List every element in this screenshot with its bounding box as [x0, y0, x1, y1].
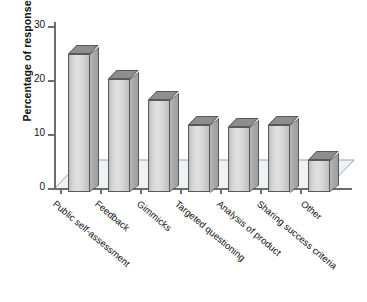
- y-tick-20: 20: [48, 80, 54, 82]
- x-tick-3: [180, 189, 182, 194]
- y-tick-30: 30: [48, 26, 54, 28]
- y-axis-title: Percentage of responses: [21, 0, 33, 143]
- bar-front-face: [148, 100, 170, 192]
- bar-side-face: [90, 47, 99, 192]
- x-axis-label-gimmicks: Gimmicks: [135, 198, 174, 233]
- x-tick-0: [60, 189, 62, 194]
- bar-front-face: [308, 160, 330, 192]
- x-axis-label-feedback: Feedback: [93, 198, 132, 233]
- x-tick-5: [260, 189, 262, 194]
- bar-side-face: [250, 120, 259, 192]
- bar-front-face: [268, 125, 290, 193]
- x-axis-label-other: Other: [299, 198, 324, 222]
- x-tick-4: [220, 189, 222, 194]
- y-tick-label-10: 10: [34, 127, 45, 138]
- bar-front-face: [188, 125, 210, 193]
- bar-side-face: [170, 93, 179, 192]
- bar-gimmicks: [148, 91, 170, 192]
- bar-side-face: [330, 153, 339, 192]
- bar-chart: Percentage of responses 0 10 20 30: [0, 0, 367, 302]
- x-tick-1: [100, 189, 102, 194]
- x-axis-label-sharing-success-criteria: Sharing success criteria: [255, 198, 339, 271]
- x-tick-2: [140, 189, 142, 194]
- bar-other: [308, 151, 330, 192]
- bar-analysis-of-product: [228, 118, 250, 192]
- y-tick-0: 0: [48, 188, 54, 190]
- bar-side-face: [210, 117, 219, 192]
- bar-targeted-questioning: [188, 116, 210, 193]
- x-axis-label-public-self-assessment: Public self-assessment: [51, 198, 132, 269]
- bar-public-self-assessment: [68, 45, 90, 192]
- bar-front-face: [228, 127, 250, 192]
- x-axis-label-targeted-questioning: Targeted questioning: [173, 198, 248, 263]
- y-tick-label-30: 30: [34, 19, 45, 30]
- y-axis-line: [54, 22, 56, 189]
- bar-front-face: [68, 54, 90, 192]
- bar-sharing-success-criteria: [268, 116, 290, 193]
- y-tick-10: 10: [48, 134, 54, 136]
- bar-feedback: [108, 70, 130, 192]
- x-tick-6: [300, 189, 302, 194]
- bar-side-face: [130, 72, 139, 192]
- bar-side-face: [290, 117, 299, 192]
- y-tick-label-0: 0: [39, 181, 45, 192]
- bar-front-face: [108, 79, 130, 192]
- y-tick-label-20: 20: [34, 73, 45, 84]
